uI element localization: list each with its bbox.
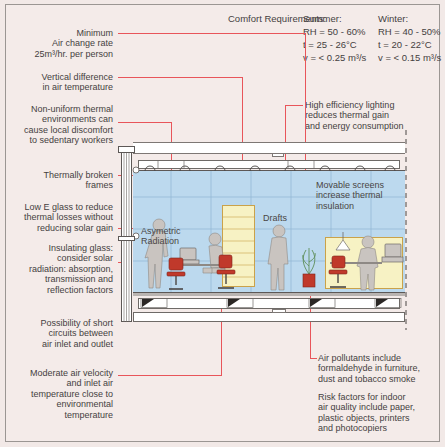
scene-label-drafts: Drafts [263, 213, 287, 223]
office-chair-right [328, 256, 348, 290]
potted-plant [297, 244, 321, 290]
facade-transom-nodes [118, 160, 140, 300]
ceiling-air-outlets [138, 160, 400, 169]
ceiling-slab-body [133, 143, 405, 153]
floor-air-inlet-diffusers [138, 298, 400, 309]
pendant-lamp [333, 232, 353, 252]
building-section-drawing: Asymetric Radiation Drafts Movable scree… [0, 0, 445, 447]
diagram-page: Comfort Requirements: Summer: RH = 50 - … [0, 0, 445, 447]
monitor-right [382, 244, 404, 264]
floor-slab-top [133, 292, 405, 296]
scene-label-asymmetric-radiation: Asymetric Radiation [141, 226, 211, 247]
section-cut-line-right [405, 130, 407, 330]
figure-standing-centre [266, 224, 292, 290]
floor-plenum-step [272, 309, 286, 313]
facade-sill-detail [118, 236, 135, 241]
facade-mullion-head [118, 146, 135, 153]
floor-structure-band [133, 312, 405, 322]
ceiling-slab-step [272, 153, 284, 157]
ceiling-slab-bottom [133, 153, 405, 154]
scene-label-movable-screens: Movable screens increase thermal insulat… [316, 180, 408, 211]
office-chair-left [166, 258, 186, 292]
office-chair-centre [216, 255, 236, 291]
